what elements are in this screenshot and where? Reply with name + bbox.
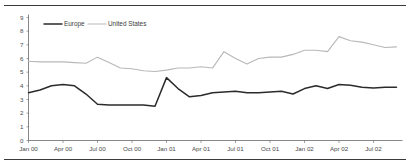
x-axis-tick-marks bbox=[29, 141, 374, 144]
y-tick-label: 9 bbox=[20, 14, 24, 21]
x-tick-label: Oct 01 bbox=[261, 145, 280, 152]
y-tick-label: 5 bbox=[20, 68, 24, 75]
y-tick-label: 3 bbox=[20, 96, 24, 103]
x-tick-label: Jul 02 bbox=[365, 145, 382, 152]
x-tick-label: Apr 01 bbox=[192, 145, 211, 152]
x-tick-label: Jul 01 bbox=[227, 145, 244, 152]
x-tick-label: Apr 00 bbox=[54, 145, 73, 152]
y-tick-label: 1 bbox=[20, 123, 24, 130]
y-tick-label: 7 bbox=[20, 41, 24, 48]
legend-label-united-states: United States bbox=[108, 20, 146, 27]
x-tick-label: Jul 00 bbox=[89, 145, 106, 152]
y-tick-label: 0 bbox=[20, 137, 24, 144]
chart-figure: 0123456789 Jan 00Apr 00Jul 00Oct 00Jan 0… bbox=[0, 0, 410, 164]
x-tick-label: Jan 02 bbox=[295, 145, 314, 152]
legend-label-europe: Europe bbox=[64, 20, 85, 28]
y-tick-label: 4 bbox=[20, 82, 24, 89]
y-axis-tick-labels: 0123456789 bbox=[20, 14, 24, 144]
series-line-europe bbox=[29, 78, 397, 107]
y-tick-label: 8 bbox=[20, 27, 24, 34]
y-tick-label: 2 bbox=[20, 109, 24, 116]
x-tick-label: Oct 00 bbox=[123, 145, 142, 152]
x-axis-tick-labels: Jan 00Apr 00Jul 00Oct 00Jan 01Apr 01Jul … bbox=[19, 145, 382, 152]
series-line-united-states bbox=[29, 37, 397, 72]
y-tick-label: 6 bbox=[20, 55, 24, 62]
x-tick-label: Apr 02 bbox=[330, 145, 349, 152]
x-tick-label: Jan 00 bbox=[19, 145, 38, 152]
x-tick-label: Jan 01 bbox=[157, 145, 176, 152]
line-chart-plot: 0123456789 Jan 00Apr 00Jul 00Oct 00Jan 0… bbox=[0, 0, 410, 164]
chart-legend: Europe United States bbox=[44, 20, 146, 28]
